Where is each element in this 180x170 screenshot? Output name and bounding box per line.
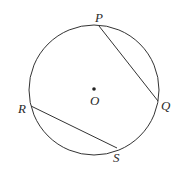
label-point-p: P [94, 10, 103, 25]
label-center-o: O [90, 93, 100, 108]
label-point-s: S [113, 150, 120, 165]
circle-diagram: O P Q R S [0, 0, 180, 170]
label-point-r: R [17, 101, 26, 116]
center-point-dot [92, 87, 96, 91]
chord-rs [31, 106, 117, 148]
chord-pq [99, 26, 158, 101]
label-point-q: Q [161, 98, 171, 113]
